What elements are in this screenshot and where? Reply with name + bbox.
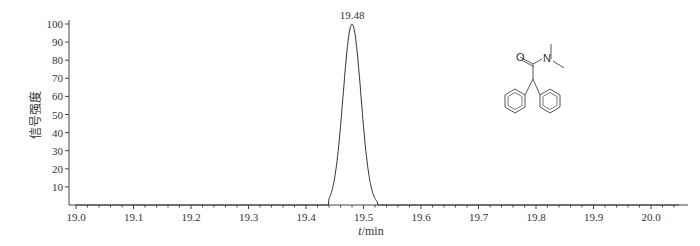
- y-tick-label: 50: [52, 109, 64, 121]
- x-tick-label: 19.2: [181, 211, 200, 223]
- x-tick-label: 19.1: [124, 211, 143, 223]
- peak-trace: [76, 24, 679, 205]
- y-tick-label: 20: [52, 163, 64, 175]
- x-tick-label: 19.4: [296, 211, 316, 223]
- x-tick-label: 19.0: [66, 211, 86, 223]
- y-tick-label: 40: [52, 127, 64, 139]
- axes: [69, 20, 688, 205]
- atom-o: O: [516, 51, 525, 63]
- y-tick-label: 10: [52, 181, 64, 193]
- x-tick-label: 19.9: [584, 211, 604, 223]
- x-ticks: 19.019.119.219.319.419.519.619.719.819.9…: [66, 205, 674, 223]
- atom-n: N: [543, 52, 551, 64]
- y-tick-label: 70: [52, 72, 64, 84]
- x-tick-label: 19.6: [411, 211, 431, 223]
- y-axis-label: 信号强度: [28, 91, 43, 139]
- y-tick-label: 80: [52, 54, 64, 66]
- x-tick-label: 19.5: [354, 211, 374, 223]
- x-tick-label: 19.8: [526, 211, 546, 223]
- y-tick-label: 30: [52, 145, 64, 157]
- x-tick-label: 19.7: [469, 211, 489, 223]
- y-tick-label: 60: [52, 90, 64, 102]
- peak-label: 19.48: [340, 9, 365, 21]
- molecule-structure: [505, 44, 564, 113]
- x-axis-label: t/min: [358, 224, 383, 238]
- x-tick-label: 20.0: [641, 211, 661, 223]
- x-tick-label: 19.3: [239, 211, 259, 223]
- y-ticks: 102030405060708090100: [47, 18, 70, 193]
- chromatogram-chart: 102030405060708090100 19.019.119.219.319…: [0, 0, 700, 246]
- y-tick-label: 90: [52, 36, 64, 48]
- y-tick-label: 100: [47, 18, 64, 30]
